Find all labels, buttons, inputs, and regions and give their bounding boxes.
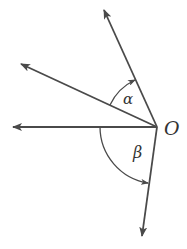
angle-diagram: α β O: [0, 0, 187, 249]
alpha-label: α: [123, 90, 133, 108]
ray-up: [104, 10, 157, 127]
ray-down: [142, 127, 157, 236]
origin-label: O: [164, 117, 180, 139]
ray-upper-left: [21, 64, 157, 127]
beta-label: β: [132, 143, 142, 162]
